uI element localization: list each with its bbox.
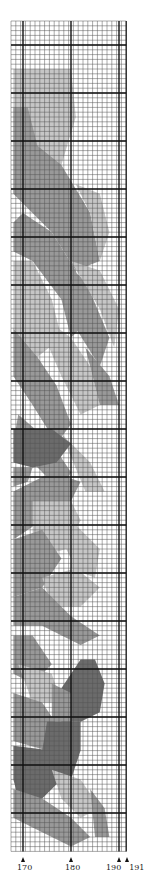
axis-label-190: 190	[106, 864, 121, 872]
axis-marker-191	[125, 857, 129, 862]
axis-label-170: 170	[17, 864, 32, 872]
axis-marker-180	[69, 857, 73, 862]
axis-marker-170	[21, 857, 25, 862]
axis-marker-190	[117, 857, 121, 862]
axis-label-191: 191	[129, 864, 144, 872]
cross-stitch-chart	[0, 0, 154, 885]
axis-label-180: 180	[65, 864, 80, 872]
